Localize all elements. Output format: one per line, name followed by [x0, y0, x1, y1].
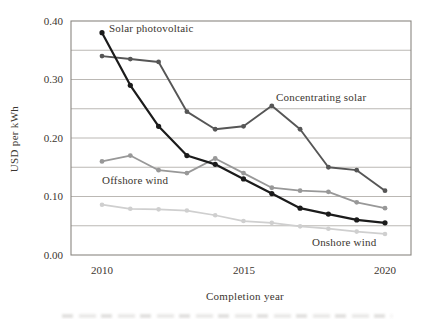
data-point	[298, 188, 303, 193]
data-point	[326, 226, 331, 231]
y-tick-label-020: 0.20	[28, 132, 63, 145]
data-point	[354, 200, 359, 205]
data-point	[185, 208, 190, 213]
series-line-concentrating-solar	[102, 56, 385, 191]
data-point	[156, 207, 161, 212]
series-label-onshore-wind: Onshore wind	[312, 236, 376, 248]
data-point	[298, 127, 303, 132]
data-point	[298, 224, 303, 229]
data-point	[184, 153, 189, 158]
data-point	[326, 165, 331, 170]
data-point	[382, 220, 387, 225]
data-point	[241, 124, 246, 129]
x-tick-label-2015: 2015	[224, 264, 264, 277]
data-point	[354, 229, 359, 234]
data-point	[269, 185, 274, 190]
data-point	[156, 124, 161, 129]
data-point	[128, 83, 133, 88]
series-label-offshore-wind: Offshore wind	[102, 174, 168, 186]
data-point	[99, 30, 104, 35]
cropped-caption-text	[62, 314, 392, 318]
data-point	[185, 171, 190, 176]
x-axis-title: Completion year	[165, 290, 325, 302]
line-chart-plot	[0, 0, 424, 319]
data-point	[128, 206, 133, 211]
data-point	[213, 162, 218, 167]
data-point	[100, 159, 105, 164]
y-tick-label-010: 0.10	[28, 190, 63, 203]
data-point	[269, 191, 274, 196]
data-point	[241, 176, 246, 181]
y-tick-label-030: 0.30	[28, 73, 63, 86]
data-point	[156, 60, 161, 65]
data-point	[128, 153, 133, 158]
data-point	[270, 221, 275, 226]
data-point	[213, 127, 218, 132]
series-label-concentrating-solar: Concentrating solar	[276, 91, 366, 103]
data-point	[383, 206, 388, 211]
data-point	[354, 168, 359, 173]
data-point	[100, 54, 105, 59]
data-point	[354, 217, 359, 222]
data-point	[213, 213, 218, 218]
data-point	[383, 232, 388, 237]
data-point	[100, 202, 105, 207]
data-point	[213, 156, 218, 161]
data-point	[383, 188, 388, 193]
data-point	[241, 219, 246, 224]
data-point	[326, 189, 331, 194]
x-tick-label-2020: 2020	[365, 264, 405, 277]
data-point	[269, 103, 274, 108]
data-point	[185, 109, 190, 114]
data-point	[128, 57, 133, 62]
y-tick-label-040: 0.40	[28, 15, 63, 28]
data-point	[156, 168, 161, 173]
y-tick-label-000: 0.00	[28, 249, 63, 262]
x-tick-label-2010: 2010	[82, 264, 122, 277]
series-label-solar-photovoltaic: Solar photovoltaic	[109, 22, 194, 34]
chart-figure: USD per kWh 0.40 0.30 0.20 0.10 0.00 201…	[0, 0, 424, 319]
data-point	[326, 211, 331, 216]
data-point	[241, 171, 246, 176]
data-point	[298, 206, 303, 211]
